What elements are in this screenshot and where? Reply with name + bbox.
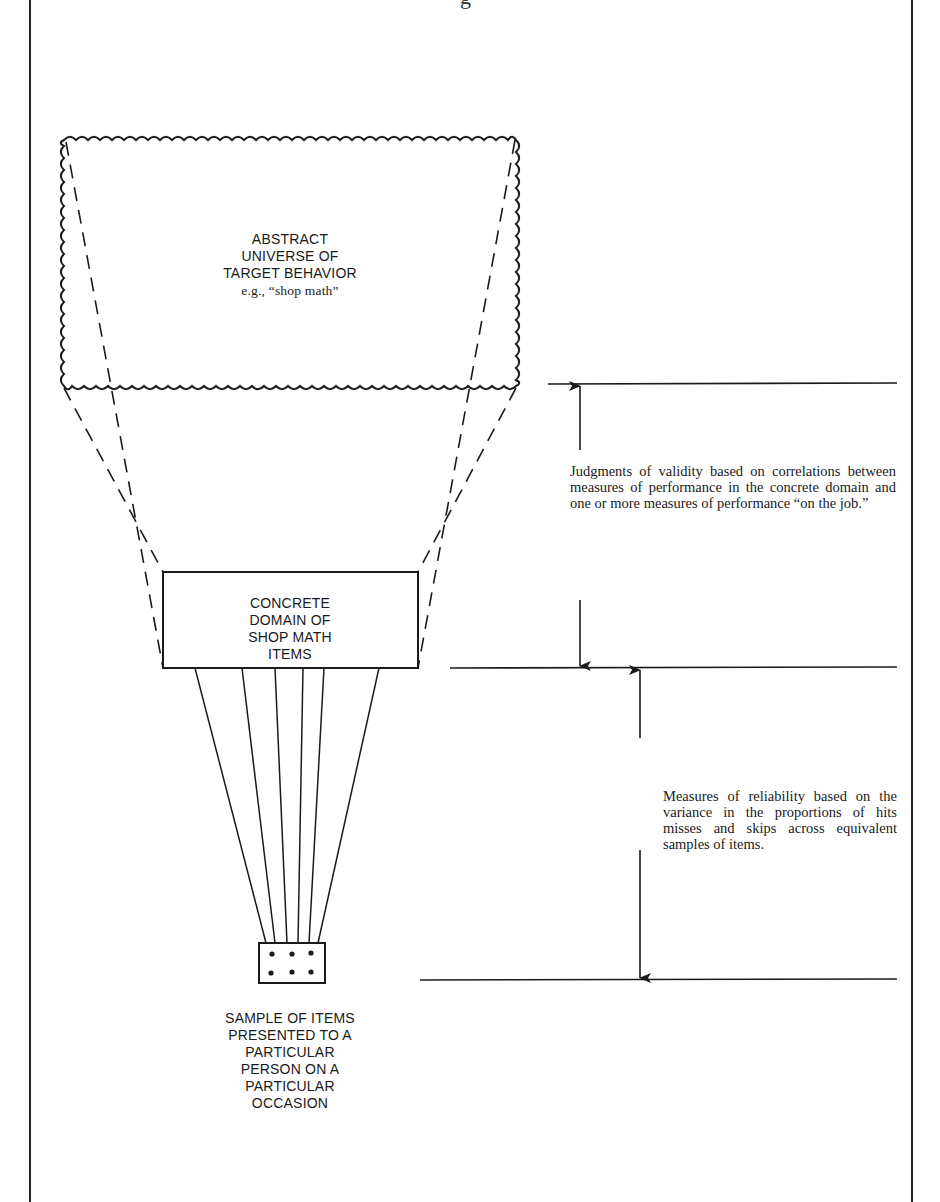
universe-label-line: TARGET BEHAVIOR bbox=[190, 265, 390, 282]
sample-caption: SAMPLE OF ITEMS PRESENTED TO A PARTICULA… bbox=[195, 1010, 385, 1112]
item-dot bbox=[308, 950, 313, 955]
concrete-label-line: CONCRETE bbox=[190, 595, 390, 612]
item-dot bbox=[269, 951, 274, 956]
universe-label: ABSTRACT UNIVERSE OF TARGET BEHAVIOR e.g… bbox=[190, 231, 390, 299]
universe-label-line: ABSTRACT bbox=[190, 231, 390, 248]
universe-level-line bbox=[548, 383, 897, 384]
item-dot bbox=[268, 970, 273, 975]
sample-caption-line: PRESENTED TO A bbox=[195, 1027, 385, 1044]
concrete-label-line: SHOP MATH bbox=[190, 629, 390, 646]
sampling-fan-lines bbox=[195, 668, 379, 943]
concrete-label-line: ITEMS bbox=[190, 646, 390, 663]
domain-level-line bbox=[450, 667, 897, 668]
concrete-domain-label: CONCRETE DOMAIN OF SHOP MATH ITEMS bbox=[190, 595, 390, 663]
item-dot bbox=[289, 969, 294, 974]
sample-box bbox=[259, 943, 325, 983]
diagram-canvas bbox=[0, 0, 940, 1202]
universe-label-line: UNIVERSE OF bbox=[190, 248, 390, 265]
sample-level-line bbox=[420, 979, 897, 980]
sample-caption-line: SAMPLE OF ITEMS bbox=[195, 1010, 385, 1027]
item-dot bbox=[308, 969, 313, 974]
sample-caption-line: PARTICULAR bbox=[195, 1044, 385, 1061]
item-dot bbox=[289, 951, 294, 956]
title-fragment: g bbox=[460, 0, 471, 10]
validity-note: Judgments of validity based on correlati… bbox=[570, 463, 896, 511]
concrete-label-line: DOMAIN OF bbox=[190, 612, 390, 629]
reliability-note: Measures of reliability based on the var… bbox=[663, 788, 897, 852]
sample-caption-line: OCCASION bbox=[195, 1095, 385, 1112]
sample-caption-line: PERSON ON A bbox=[195, 1061, 385, 1078]
universe-example: e.g., “shop math” bbox=[190, 282, 390, 299]
sample-caption-line: PARTICULAR bbox=[195, 1078, 385, 1095]
